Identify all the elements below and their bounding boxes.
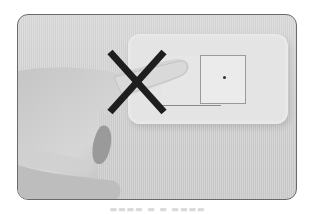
photo-card (17, 14, 297, 200)
caption-text: ▬▬▬▬ ▬ ▬ ▬▬▬▬ (0, 206, 315, 214)
cross-mark-icon (107, 49, 167, 115)
